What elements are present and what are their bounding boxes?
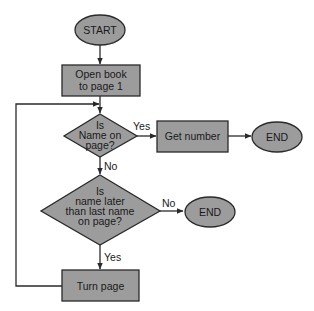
start-label: START [83,24,117,36]
decision-1-line-3: page? [85,139,114,151]
get-number-process: Get number [157,121,228,152]
decision-1-no-label: No [104,160,118,172]
turn-page-label: Turn page [77,280,125,292]
decision-1-yes-label: Yes [133,120,150,132]
start-terminal: START [75,15,125,45]
end-terminal-1: END [252,122,302,152]
turn-page-process: Turn page [62,270,139,301]
decision-2-yes-label: Yes [104,251,121,263]
end-1-label: END [266,131,289,143]
decision-2-line-4: on page? [78,215,122,227]
end-terminal-2: END [185,197,235,227]
open-book-label-line-1: Open book [75,68,127,80]
open-book-process: Open book to page 1 [62,65,140,96]
end-2-label: END [199,206,222,218]
get-number-label: Get number [165,130,221,142]
decision-2-no-label: No [162,197,176,209]
flowchart: START Open book to page 1 Is Name on pag… [0,0,314,311]
open-book-label-line-2: to page 1 [79,80,123,92]
is-name-on-page-decision: Is Name on page? [64,114,137,157]
is-name-later-decision: Is name later than last name on page? [41,175,160,245]
